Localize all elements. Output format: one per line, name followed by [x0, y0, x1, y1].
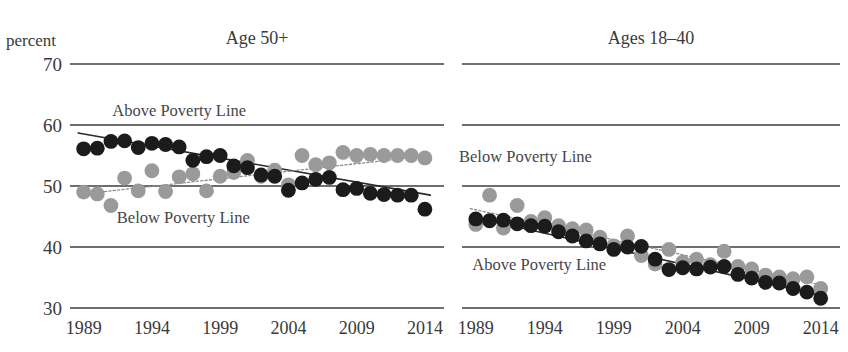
point-p1-above-1992 [510, 216, 525, 231]
point-p1-above-2000 [620, 240, 635, 255]
point-p0-below-1992 [117, 171, 132, 186]
point-p1-above-1995 [551, 224, 566, 239]
series-label-ages-18-40-below: Below Poverty Line [459, 147, 592, 166]
point-p1-above-1993 [524, 218, 539, 233]
x-tick-p1-1999: 1999 [596, 318, 632, 338]
point-p0-above-2002 [254, 168, 269, 183]
point-p0-above-2010 [363, 186, 378, 201]
point-p0-above-2011 [377, 187, 392, 202]
point-p0-above-1996 [172, 140, 187, 155]
x-tick-p0-1989: 1989 [66, 318, 102, 338]
point-p0-below-2006 [308, 157, 323, 172]
x-tick-p1-2004: 2004 [665, 318, 701, 338]
point-p0-below-1997 [185, 166, 200, 181]
point-p0-above-1992 [117, 133, 132, 148]
y-tick-30: 30 [43, 298, 62, 319]
point-p0-below-1994 [144, 163, 159, 178]
point-p0-above-1999 [213, 148, 228, 163]
point-p0-below-1989 [76, 185, 91, 200]
point-p1-above-1998 [593, 237, 608, 252]
point-p0-below-2012 [390, 148, 405, 163]
point-p0-above-1993 [131, 140, 146, 155]
y-tick-40: 40 [43, 237, 62, 258]
point-p0-below-2014 [417, 151, 432, 166]
point-p0-below-1998 [199, 183, 214, 198]
x-tick-p0-1999: 1999 [202, 318, 238, 338]
point-p0-above-1995 [158, 137, 173, 152]
panel-title-ages-18-40: Ages 18–40 [608, 28, 695, 48]
x-tick-p1-1994: 1994 [527, 318, 563, 338]
point-p1-above-1994 [537, 219, 552, 234]
point-p0-below-2013 [404, 148, 419, 163]
point-p1-above-1996 [565, 229, 580, 244]
point-p1-below-2003 [662, 242, 677, 257]
point-p1-above-2004 [675, 260, 690, 275]
point-p0-above-2012 [390, 188, 405, 203]
point-p1-above-2012 [786, 281, 801, 296]
point-p0-above-2014 [417, 202, 432, 217]
point-p0-above-2009 [349, 181, 364, 196]
point-p0-below-2009 [349, 148, 364, 163]
point-p0-above-2006 [308, 172, 323, 187]
x-tick-p1-1989: 1989 [458, 318, 494, 338]
y-axis-unit-caption: percent [6, 31, 56, 50]
point-p0-above-2004 [281, 183, 296, 198]
point-p0-below-1990 [90, 187, 105, 202]
x-tick-p0-2004: 2004 [270, 318, 306, 338]
point-p1-below-1990 [482, 188, 497, 203]
two-panel-scatter-chart: percent 7060504030 Age 50+Ages 18–40 Abo… [0, 0, 848, 352]
x-tick-p1-2009: 2009 [734, 318, 770, 338]
point-p0-above-1989 [76, 141, 91, 156]
point-p1-above-2013 [799, 285, 814, 300]
x-tick-p0-2014: 2014 [407, 318, 443, 338]
x-tick-p0-1994: 1994 [134, 318, 170, 338]
point-p1-below-2007 [717, 244, 732, 259]
point-p1-above-2014 [813, 291, 828, 306]
point-p1-above-2011 [772, 276, 787, 291]
point-p0-above-2001 [240, 160, 255, 175]
series-label-ages-18-40-above: Above Poverty Line [472, 255, 606, 274]
point-p0-above-2005 [295, 176, 310, 191]
point-p1-below-2013 [799, 269, 814, 284]
point-p0-above-2000 [226, 158, 241, 173]
point-p0-below-1996 [172, 169, 187, 184]
point-p0-above-1991 [104, 134, 119, 149]
point-p0-below-1999 [213, 169, 228, 184]
point-p1-above-1989 [468, 212, 483, 227]
point-p1-above-1990 [482, 213, 497, 228]
point-p0-above-1998 [199, 149, 214, 164]
panel-title-age-50-plus: Age 50+ [226, 28, 289, 48]
point-p1-above-2009 [744, 271, 759, 286]
point-p0-above-1994 [144, 136, 159, 151]
point-p0-below-2010 [363, 147, 378, 162]
point-p0-above-2008 [336, 182, 351, 197]
point-p1-above-2002 [648, 252, 663, 267]
y-tick-70: 70 [43, 54, 62, 75]
point-p0-below-1993 [131, 183, 146, 198]
point-p0-below-2007 [322, 155, 337, 170]
point-p0-above-2013 [404, 188, 419, 203]
point-p0-above-2007 [322, 170, 337, 185]
point-p0-above-1997 [185, 153, 200, 168]
point-p0-above-1990 [90, 141, 105, 156]
y-tick-60: 60 [43, 115, 62, 136]
x-tick-p1-2014: 2014 [803, 318, 839, 338]
point-p1-above-1991 [496, 213, 511, 228]
chart-figure: percent 7060504030 Age 50+Ages 18–40 Abo… [0, 0, 848, 352]
point-p1-above-2005 [689, 262, 704, 277]
point-p1-above-2007 [717, 259, 732, 274]
series-label-age-50-plus-above: Above Poverty Line [112, 101, 246, 120]
point-p0-below-1995 [158, 184, 173, 199]
point-p0-above-2003 [267, 169, 282, 184]
point-p1-above-1997 [579, 234, 594, 249]
point-p1-above-2003 [662, 262, 677, 277]
x-tick-p0-2009: 2009 [339, 318, 375, 338]
point-p0-below-2005 [295, 148, 310, 163]
point-p0-below-2008 [336, 145, 351, 160]
point-p1-above-2001 [634, 239, 649, 254]
point-p1-above-1999 [606, 242, 621, 257]
point-p1-above-2006 [703, 260, 718, 275]
point-p0-below-2011 [377, 148, 392, 163]
series-label-age-50-plus-below: Below Poverty Line [117, 208, 250, 227]
y-tick-50: 50 [43, 176, 62, 197]
